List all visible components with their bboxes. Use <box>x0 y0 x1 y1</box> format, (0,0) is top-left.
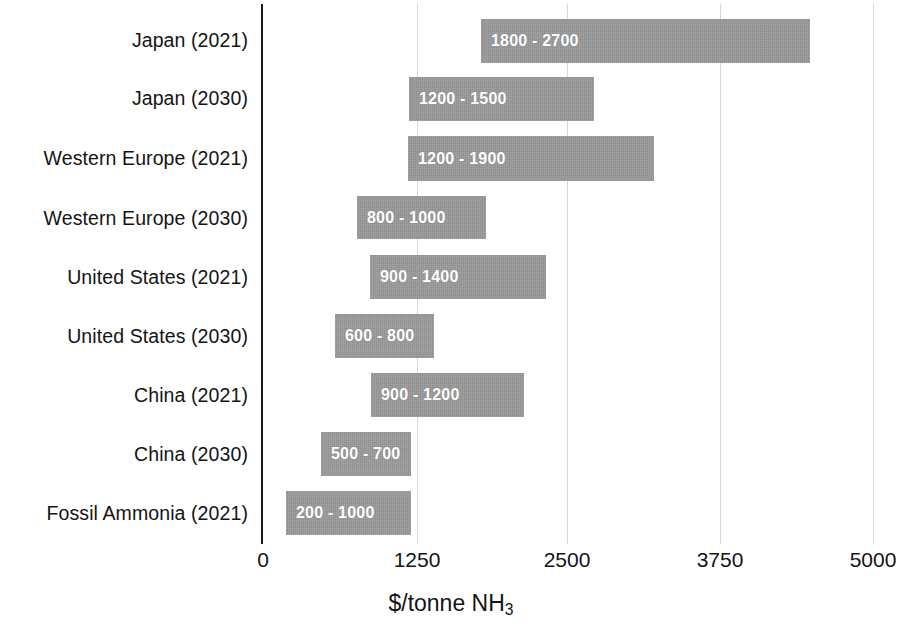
category-label-china-2030: China (2030) <box>134 445 248 465</box>
x-tick-label-2500: 2500 <box>544 549 591 570</box>
bar-western-europe-2021: 1200 - 1900 <box>408 136 654 181</box>
bar-china-2021: 900 - 1200 <box>371 373 524 417</box>
bar-japan-2030: 1200 - 1500 <box>409 77 594 121</box>
category-label-japan-2030: Japan (2030) <box>132 89 248 109</box>
gridline-3750 <box>720 4 721 544</box>
x-axis-title-subscript: 3 <box>505 601 514 618</box>
bar-value-label: 500 - 700 <box>321 445 400 463</box>
x-tick-label-1250: 1250 <box>394 549 441 570</box>
category-label-china-2021: China (2021) <box>134 386 248 406</box>
bar-united-states-2030: 600 - 800 <box>335 314 434 358</box>
category-label-united-states-2030: United States (2030) <box>67 327 248 347</box>
bar-value-label: 800 - 1000 <box>357 209 446 227</box>
bar-united-states-2021: 900 - 1400 <box>370 255 546 299</box>
bar-western-europe-2030: 800 - 1000 <box>357 196 486 239</box>
category-label-japan-2021: Japan (2021) <box>132 31 248 51</box>
x-tick-label-3750: 3750 <box>697 549 744 570</box>
bar-japan-2021: 1800 - 2700 <box>481 19 810 63</box>
gridline-5000 <box>873 4 874 544</box>
bar-value-label: 600 - 800 <box>335 327 414 345</box>
x-tick-label-0: 0 <box>257 549 269 570</box>
bar-fossil-ammonia-2021: 200 - 1000 <box>286 491 411 535</box>
bar-value-label: 900 - 1400 <box>370 268 459 286</box>
bar-value-label: 900 - 1200 <box>371 386 460 404</box>
bar-value-label: 1200 - 1900 <box>408 150 506 168</box>
bar-china-2030: 500 - 700 <box>321 432 411 476</box>
y-axis-line <box>261 4 263 544</box>
x-axis-title-text: $/tonne NH <box>388 590 504 616</box>
category-label-western-europe-2021: Western Europe (2021) <box>44 149 248 169</box>
chart-container: Japan (2021) Japan (2030) Western Europe… <box>0 0 902 629</box>
category-label-western-europe-2030: Western Europe (2030) <box>44 209 248 229</box>
bar-value-label: 1200 - 1500 <box>409 90 507 108</box>
bar-value-label: 200 - 1000 <box>286 504 375 522</box>
x-axis-title: $/tonne NH3 <box>0 592 902 615</box>
category-label-fossil-ammonia-2021: Fossil Ammonia (2021) <box>46 504 248 524</box>
plot-area: Japan (2021) Japan (2030) Western Europe… <box>0 0 902 629</box>
x-tick-label-5000: 5000 <box>850 549 897 570</box>
category-label-united-states-2021: United States (2021) <box>67 268 248 288</box>
bar-value-label: 1800 - 2700 <box>481 32 579 50</box>
